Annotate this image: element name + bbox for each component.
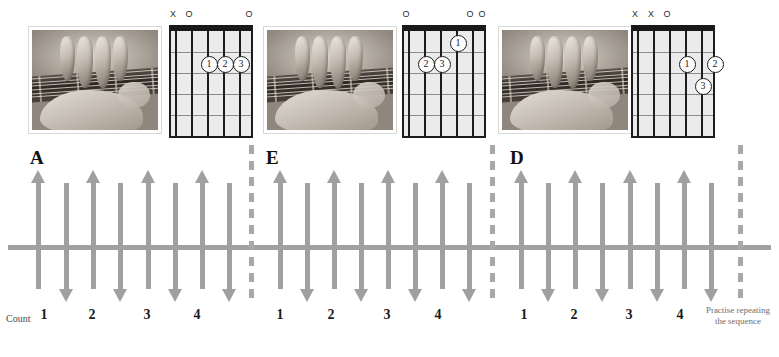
- finger-position-2: 2: [707, 56, 724, 73]
- photo-image: [502, 30, 628, 130]
- arrowhead-down-icon: [704, 289, 718, 302]
- open-string-marker: O: [465, 8, 475, 20]
- finger-position-2: 2: [217, 56, 234, 73]
- photo-finger: [565, 36, 581, 88]
- open-string-marker: O: [244, 8, 254, 20]
- measure-chord-label-d: D: [510, 147, 524, 169]
- diagram-string: [408, 31, 410, 136]
- strum-arrow-down: [546, 183, 551, 291]
- photo-finger: [60, 36, 76, 81]
- arrowhead-down-icon: [113, 289, 127, 302]
- strum-arrow-up: [682, 181, 687, 289]
- diagram-string: [424, 31, 426, 136]
- beat-count-1: 1: [516, 307, 532, 323]
- strum-arrow-down: [359, 183, 364, 291]
- measure-barline: [249, 145, 254, 305]
- muted-string-marker: X: [168, 8, 178, 20]
- measure-barline: [738, 145, 743, 305]
- open-muted-markers: XXO: [630, 8, 718, 24]
- arrowhead-down-icon: [300, 289, 314, 302]
- measure-chord-label-e: E: [266, 147, 279, 169]
- beat-count-1: 1: [36, 307, 52, 323]
- chord-photo-d: [498, 26, 632, 134]
- strum-arrow-up: [146, 181, 151, 289]
- arrowhead-up-icon: [381, 170, 395, 183]
- diagram-string: [175, 31, 177, 136]
- diagram-string: [223, 31, 225, 136]
- strum-arrow-up: [36, 181, 41, 289]
- arrowhead-up-icon: [327, 170, 341, 183]
- strum-arrow-down: [64, 183, 69, 291]
- arrowhead-down-icon: [354, 289, 368, 302]
- finger-position-3: 3: [434, 56, 451, 73]
- finger-position-2: 2: [418, 56, 435, 73]
- diagram-string: [653, 31, 655, 136]
- arrowhead-down-icon: [408, 289, 422, 302]
- open-muted-markers: XOO: [168, 8, 256, 24]
- arrowhead-down-icon: [541, 289, 555, 302]
- open-string-marker: O: [184, 8, 194, 20]
- arrowhead-up-icon: [514, 170, 528, 183]
- photo-finger: [348, 36, 364, 81]
- arrowhead-up-icon: [435, 170, 449, 183]
- diagram-string: [239, 31, 241, 136]
- diagram-string: [440, 31, 442, 136]
- arrowhead-up-icon: [273, 170, 287, 183]
- chord-diagram-e: OOO123: [401, 8, 489, 142]
- chord-photo-a: [28, 26, 162, 134]
- strum-arrow-down: [655, 183, 660, 291]
- diagram-string: [191, 31, 193, 136]
- strum-arrow-up: [278, 181, 283, 289]
- finger-position-1: 1: [201, 56, 218, 73]
- arrowhead-up-icon: [86, 170, 100, 183]
- strum-arrow-up: [200, 181, 205, 289]
- arrowhead-up-icon: [623, 170, 637, 183]
- beat-count-1: 1: [272, 307, 288, 323]
- diagram-string: [207, 31, 209, 136]
- chord-diagram-a: XOO123: [168, 8, 256, 142]
- arrowhead-down-icon: [168, 289, 182, 302]
- strumming-pattern-chart: A1234E1234D1234 Count Practise repeating…: [0, 145, 779, 357]
- strum-arrow-up: [440, 181, 445, 289]
- open-string-marker: O: [477, 8, 487, 20]
- strum-arrow-up: [573, 181, 578, 289]
- diagram-string: [669, 31, 671, 136]
- photo-fingers: [60, 36, 131, 88]
- fretboard-grid: 123: [402, 25, 486, 138]
- arrowhead-up-icon: [31, 170, 45, 183]
- count-label: Count: [6, 313, 30, 324]
- photo-finger: [113, 36, 129, 81]
- strum-arrow-down: [467, 183, 472, 291]
- diagram-string: [685, 31, 687, 136]
- strum-arrow-up: [519, 181, 524, 289]
- photo-fingers: [295, 36, 366, 88]
- beat-count-4: 4: [189, 307, 205, 323]
- diagram-string: [251, 31, 253, 136]
- beat-count-3: 3: [139, 307, 155, 323]
- beat-count-3: 3: [621, 307, 637, 323]
- strum-arrow-down: [305, 183, 310, 291]
- strum-arrow-down: [173, 183, 178, 291]
- guitar-chord-strumming-page: XOO123OOO123XXO123 A1234E1234D1234 Count…: [0, 0, 779, 357]
- diagram-string: [637, 31, 639, 136]
- finger-position-3: 3: [695, 78, 712, 95]
- diagram-string: [484, 31, 486, 136]
- arrowhead-up-icon: [677, 170, 691, 183]
- arrowhead-up-icon: [568, 170, 582, 183]
- photo-finger: [295, 36, 311, 81]
- photo-thumb: [588, 82, 621, 108]
- measure-barline: [490, 145, 495, 305]
- photo-finger: [547, 36, 563, 88]
- beat-count-2: 2: [84, 307, 100, 323]
- strum-arrow-up: [91, 181, 96, 289]
- finger-position-1: 1: [679, 56, 696, 73]
- open-muted-markers: OOO: [401, 8, 489, 24]
- fretboard-grid: 123: [631, 25, 715, 138]
- photo-image: [32, 30, 158, 130]
- strum-arrow-up: [628, 181, 633, 289]
- arrowhead-down-icon: [650, 289, 664, 302]
- measure-chord-label-a: A: [30, 147, 44, 169]
- photo-image: [267, 30, 393, 130]
- strum-arrow-down: [709, 183, 714, 291]
- open-string-marker: O: [401, 8, 411, 20]
